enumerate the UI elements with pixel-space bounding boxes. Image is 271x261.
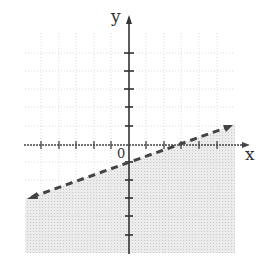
- x-axis-label: x: [245, 144, 255, 164]
- y-axis-label: y: [111, 6, 121, 26]
- coordinate-plane: [0, 0, 271, 261]
- origin-label: 0: [117, 146, 125, 161]
